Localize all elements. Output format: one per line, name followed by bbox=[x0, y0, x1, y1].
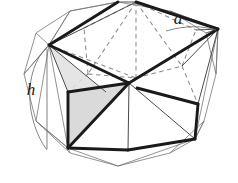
edge-label-a: a bbox=[174, 9, 183, 28]
geometry-canvas: a h bbox=[0, 0, 238, 183]
solid-edge-bottom-left-rim bbox=[68, 148, 128, 150]
height-label-h: h bbox=[27, 80, 36, 99]
geometry-figure: a h bbox=[0, 0, 238, 183]
